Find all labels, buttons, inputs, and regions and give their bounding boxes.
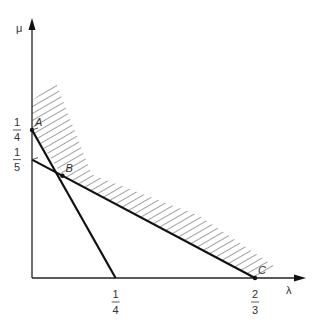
y-tick-numerator: 1	[14, 146, 20, 158]
y-tick-denominator: 5	[14, 161, 20, 173]
point-label-A: A	[34, 116, 42, 128]
x-tick-numerator: 1	[113, 288, 119, 300]
y-tick-mark	[32, 158, 38, 160]
point-B	[60, 174, 64, 178]
point-label-C: C	[258, 264, 266, 276]
y-tick-numerator: 1	[14, 116, 20, 128]
y-axis-label: μ	[16, 22, 22, 34]
y-tick-denominator: 4	[14, 131, 20, 143]
x-axis-arrow-icon	[294, 275, 306, 282]
x-tick-denominator: 4	[113, 304, 119, 316]
point-C	[253, 276, 257, 280]
x-tick-numerator: 2	[252, 288, 258, 300]
point-label-B: B	[65, 162, 72, 174]
y-axis-arrow-icon	[29, 18, 36, 30]
x-axis-label: λ	[286, 284, 292, 296]
x-tick-denominator: 3	[252, 304, 258, 316]
diagram: ABC 14151423 μ λ	[0, 0, 320, 325]
line-fifth-to-C	[32, 160, 255, 278]
